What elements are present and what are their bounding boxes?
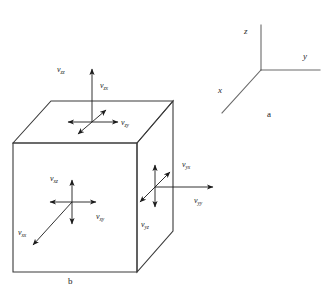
front-face-stress-arrows [33,180,96,245]
label-stress-yz: vyz [141,221,149,229]
label-stress-zz: vzz [57,66,64,74]
label-stress-xy: vxy [96,213,104,221]
label-stress-xx: vxx [18,229,26,237]
arrow-front-xx [33,202,72,245]
stress-tensor-figure: vzz vzx vzy vxz vxy vxx vyx vyy vyz z y … [0,0,327,294]
label-stress-yx: vyx [182,161,190,169]
arrow-top-zx [92,110,106,122]
arrow-top-zx-neg [78,122,92,134]
axis-triad [222,25,320,113]
arrow-right-yx-neg [140,187,155,202]
label-axis-y: y [303,52,307,61]
cube-front-face [13,143,137,272]
label-axis-z: z [244,27,248,36]
figure-vector-canvas [0,0,327,294]
label-stress-xz: vxz [50,175,58,183]
right-face-stress-arrows [140,165,213,207]
label-stress-zy: vzy [121,119,129,127]
arrow-right-yx [155,172,170,187]
cube-wireframe [13,101,173,272]
caption-panel-b: b [68,277,73,286]
caption-panel-a: a [267,110,271,119]
label-stress-zx: vzx [100,82,108,90]
axis-x-line [222,70,261,113]
label-stress-yy: vyy [194,197,202,205]
label-axis-x: x [218,86,222,95]
